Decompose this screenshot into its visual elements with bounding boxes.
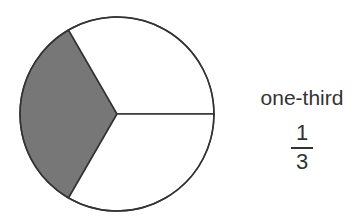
fraction: 1 3 [286,121,318,174]
fraction-word-label: one-third [252,86,352,110]
fraction-circle [0,0,356,223]
fraction-numerator: 1 [286,121,318,145]
fraction-denominator: 3 [286,150,318,174]
